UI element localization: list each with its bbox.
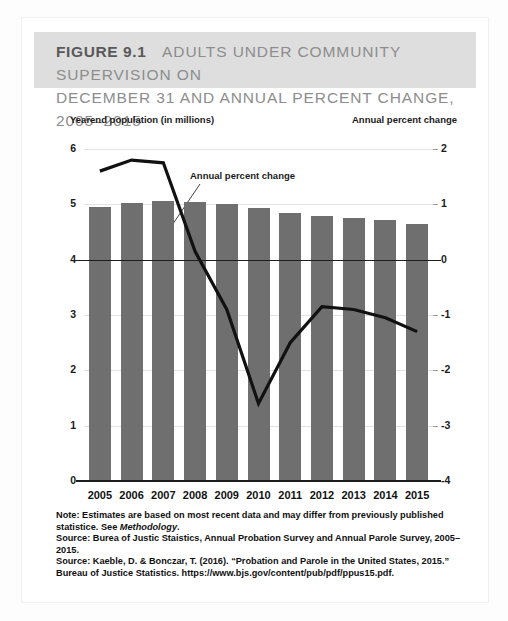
right-axis-tick: 2: [441, 142, 465, 154]
note-line: Note: Estimates are based on most recent…: [56, 510, 476, 533]
right-axis-tick-mark: [433, 370, 438, 371]
figure-title-band: FIGURE 9.1 ADULTS UNDER COMMUNITY SUPERV…: [34, 32, 476, 88]
right-axis-tick-mark: [433, 204, 438, 205]
right-axis-tick-mark: [433, 315, 438, 316]
right-axis-tick: -2: [441, 363, 465, 375]
left-axis-tick: 3: [54, 308, 76, 320]
right-axis-caption: Annual percent change: [352, 114, 457, 125]
note-text: Note: Estimates are based on most recent…: [56, 510, 444, 532]
note-end: .: [177, 522, 180, 532]
x-axis-baseline: [76, 480, 441, 482]
plot-area: 0123456210-1-2-3-4 200520062007200820092…: [84, 149, 433, 481]
bar: [152, 201, 174, 481]
right-axis-tick-mark: [433, 426, 438, 427]
bar: [248, 208, 270, 481]
bar: [311, 216, 333, 481]
bar: [121, 203, 143, 481]
left-axis-tick: 2: [54, 363, 76, 375]
note-italic: Methodology: [120, 522, 177, 532]
right-axis-tick: -4: [441, 474, 465, 486]
figure-page: FIGURE 9.1 ADULTS UNDER COMMUNITY SUPERV…: [0, 0, 508, 621]
left-axis-tick: 0: [54, 474, 76, 486]
x-axis-label: 2015: [396, 489, 438, 501]
left-axis-caption: Yearend population (in millions): [70, 114, 214, 125]
source-line-1: Source: Burea of Justic Staistics, Annua…: [56, 533, 476, 556]
right-axis-tick: -3: [441, 419, 465, 431]
left-axis-tick: 4: [54, 253, 76, 265]
gridline: [84, 149, 433, 150]
zero-axis-line: [76, 260, 441, 262]
figure-label: FIGURE 9.1: [56, 43, 146, 60]
bar: [406, 224, 428, 481]
right-axis-tick-mark: [433, 149, 438, 150]
bar: [343, 218, 365, 481]
bar: [89, 207, 111, 481]
figure-card: FIGURE 9.1 ADULTS UNDER COMMUNITY SUPERV…: [22, 18, 488, 602]
right-axis-tick: -1: [441, 308, 465, 320]
source-line-2: Source: Kaeble, D. & Bonczar, T. (2016).…: [56, 556, 476, 579]
bar: [216, 204, 238, 481]
bar: [279, 213, 301, 481]
left-axis-tick: 1: [54, 419, 76, 431]
right-axis-tick: 0: [441, 253, 465, 265]
left-axis-tick: 6: [54, 142, 76, 154]
bar: [184, 202, 206, 481]
right-axis-tick: 1: [441, 197, 465, 209]
left-axis-tick: 5: [54, 197, 76, 209]
figure-notes: Note: Estimates are based on most recent…: [56, 510, 476, 580]
